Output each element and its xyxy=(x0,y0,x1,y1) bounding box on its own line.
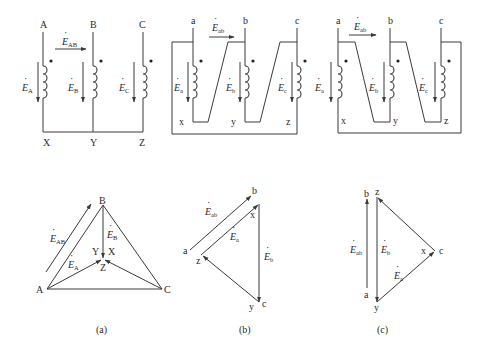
svg-text:·: · xyxy=(266,242,269,253)
emf-label-Eab: Eab xyxy=(211,22,224,34)
svg-text:·: · xyxy=(70,73,73,84)
terminal-y: y xyxy=(231,116,236,127)
phasor-diagram-b: b a x z y c Eab · Ea · Eb · xyxy=(183,185,273,312)
phasor-diagram-c: b z a y x c Eab · Eb · Ea · xyxy=(349,186,444,313)
emf-label-Eab: Eab xyxy=(204,206,217,218)
point-c: c xyxy=(262,298,267,309)
emf-label-Eab: Eab xyxy=(349,244,362,256)
point-x: x xyxy=(250,209,255,220)
terminal-c: c xyxy=(439,15,444,26)
terminal-y: y xyxy=(393,115,398,126)
winding-coil-icon xyxy=(143,66,147,98)
winding-coil-icon xyxy=(193,66,197,98)
circuit-c-delta-connection: a Ea · x b Eb · y c Ec · z Eab · xyxy=(314,12,461,133)
svg-text:·: · xyxy=(371,73,374,84)
point-a: a xyxy=(364,289,369,300)
point-a: a xyxy=(183,245,188,256)
winding-coil-icon xyxy=(390,66,394,98)
svg-text:·: · xyxy=(421,73,424,84)
winding-coil-icon xyxy=(441,66,445,98)
polarity-dot-icon xyxy=(344,59,347,62)
terminal-Z: Z xyxy=(139,137,145,148)
svg-text:·: · xyxy=(280,73,283,84)
svg-text:·: · xyxy=(70,250,73,261)
point-y: y xyxy=(374,302,379,313)
polarity-dot-icon xyxy=(149,59,152,62)
svg-text:·: · xyxy=(228,73,231,84)
svg-text:·: · xyxy=(214,13,217,24)
polarity-dot-icon xyxy=(199,59,202,62)
winding-coil-icon xyxy=(338,66,342,98)
phasor-Ec-arrow-icon xyxy=(203,256,259,302)
polarity-dot-icon xyxy=(49,59,52,62)
point-b: b xyxy=(252,185,257,196)
neutral-X: X xyxy=(108,246,116,257)
point-b: b xyxy=(364,188,369,199)
neutral-Z: Z xyxy=(100,262,106,273)
vertex-C: C xyxy=(164,284,171,295)
vertex-A: A xyxy=(36,284,44,295)
winding-coil-icon xyxy=(297,66,301,98)
terminal-C: C xyxy=(139,19,146,30)
phasor-Ea-arrow-icon xyxy=(377,252,434,302)
polarity-dot-icon xyxy=(99,59,102,62)
terminal-z: z xyxy=(286,116,291,127)
svg-text:·: · xyxy=(317,73,320,84)
svg-text:·: · xyxy=(232,222,235,233)
svg-text:·: · xyxy=(64,27,67,38)
phasor-diagram-a: B A C Y X Z EAB · EA · EB · xyxy=(36,195,171,295)
svg-text:·: · xyxy=(24,73,27,84)
emf-label-Eab: Eab xyxy=(353,21,366,33)
point-x: x xyxy=(421,245,426,256)
phasor-Eab-arrow-icon xyxy=(190,196,251,250)
terminal-x: x xyxy=(179,116,184,127)
polarity-dot-icon xyxy=(447,59,450,62)
svg-text:·: · xyxy=(121,73,124,84)
svg-text:·: · xyxy=(109,220,112,231)
terminal-z: z xyxy=(444,115,449,126)
winding-coil-icon xyxy=(93,66,97,98)
terminal-B: B xyxy=(90,19,97,30)
point-z: z xyxy=(375,186,380,197)
winding-coil-icon xyxy=(43,66,47,98)
terminal-b: b xyxy=(243,15,248,26)
circuit-a-star-connection: A EA · B EB · C EC · X Y Z EAB · xyxy=(21,19,153,148)
terminal-c: c xyxy=(295,15,300,26)
terminal-Y: Y xyxy=(90,137,97,148)
polarity-dot-icon xyxy=(251,59,254,62)
caption-b: (b) xyxy=(239,324,251,336)
svg-text:·: · xyxy=(396,261,399,272)
winding-coil-icon xyxy=(245,66,249,98)
polarity-dot-icon xyxy=(396,59,399,62)
svg-text:·: · xyxy=(176,73,179,84)
terminal-x: x xyxy=(341,115,346,126)
point-z: z xyxy=(196,255,201,266)
caption-c: (c) xyxy=(377,324,388,336)
transformer-connection-diagram: A EA · B EB · C EC · X Y Z EAB · xyxy=(0,0,478,353)
line-voltage-triangle xyxy=(47,205,162,289)
circuit-b-delta-connection: a Ea · x b Eb · y c Ec · z Eab · xyxy=(172,13,307,134)
point-y: y xyxy=(249,301,254,312)
svg-text:·: · xyxy=(52,224,55,235)
svg-text:·: · xyxy=(207,197,210,208)
terminal-A: A xyxy=(40,19,48,30)
terminal-a: a xyxy=(336,15,341,26)
vertex-B: B xyxy=(99,195,106,206)
terminal-a: a xyxy=(191,15,196,26)
terminal-X: X xyxy=(43,137,51,148)
svg-text:·: · xyxy=(383,235,386,246)
svg-text:·: · xyxy=(352,235,355,246)
terminal-b: b xyxy=(388,15,393,26)
neutral-Y: Y xyxy=(92,246,99,257)
phasor-EC-arrow-icon xyxy=(105,260,162,289)
polarity-dot-icon xyxy=(303,59,306,62)
point-c: c xyxy=(439,245,444,256)
caption-a: (a) xyxy=(96,324,107,336)
svg-text:·: · xyxy=(356,12,359,23)
